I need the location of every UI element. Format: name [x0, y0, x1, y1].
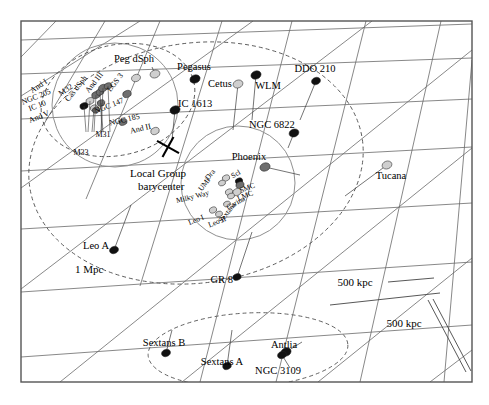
figure-canvas: Peg dSphPegasusCetusWLMDDO 210IC 1613NGC… — [0, 0, 489, 405]
label-ngc-6822: NGC 6822 — [249, 119, 295, 130]
label-peg-dsph: Peg dSph — [114, 53, 155, 64]
label-phoenix: Phoenix — [232, 151, 267, 162]
scale-bar-label-1: 500 kpc — [386, 317, 421, 329]
label-ic-1613: IC 1613 — [178, 98, 212, 109]
contour-label-1mpc: 1 Mpc — [75, 263, 104, 275]
label-m33: M33 — [73, 148, 88, 157]
label-sextans-b: Sextans B — [143, 337, 185, 348]
label-wlm: WLM — [255, 80, 281, 91]
label-ngc-3109: NGC 3109 — [255, 365, 301, 376]
label-sextans-a: Sextans A — [201, 356, 244, 367]
barycenter-label-line2: barycenter — [138, 180, 185, 192]
label-cetus: Cetus — [208, 78, 232, 89]
local-group-map-svg: Peg dSphPegasusCetusWLMDDO 210IC 1613NGC… — [0, 0, 489, 405]
label-pegasus: Pegasus — [177, 61, 211, 72]
label-leo-a: Leo A — [83, 240, 109, 251]
barycenter-label-line1: Local Group — [130, 167, 186, 179]
scale-bar-label-0: 500 kpc — [337, 276, 372, 288]
label-ddo-210: DDO 210 — [294, 63, 335, 74]
label-gr-8: GR 8 — [211, 274, 233, 285]
label-antlia: Antlia — [271, 339, 298, 350]
label-tucana: Tucana — [376, 170, 407, 181]
